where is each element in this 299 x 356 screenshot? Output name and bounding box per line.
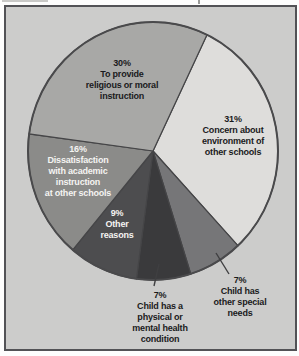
scanned-figure-page: 31%Concern aboutenvironment ofother scho… [0,0,299,356]
pie-chart-svg [0,0,299,356]
